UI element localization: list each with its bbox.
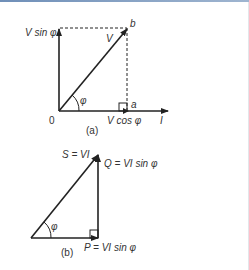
angle-phi-label: φ xyxy=(80,95,87,106)
v-label: V xyxy=(106,33,114,44)
origin-label: 0 xyxy=(49,115,55,126)
v-cos-phi-label: V cos φ xyxy=(107,115,142,126)
s-arrow xyxy=(31,155,98,238)
p-label: P = VI sin φ xyxy=(84,242,136,253)
right-angle-marker-b xyxy=(90,230,98,238)
angle-arc-b xyxy=(44,222,51,238)
diagram-a: V sin φ V b φ a 0 V cos φ I (a) xyxy=(25,18,168,136)
v-sin-phi-label: V sin φ xyxy=(25,27,57,38)
q-label: Q = VI sin φ xyxy=(104,158,158,169)
v-phasor-arrow xyxy=(59,29,127,111)
diagram-b: S = VI Q = VI sin φ φ P = VI sin φ (b) xyxy=(31,149,158,258)
s-label: S = VI xyxy=(62,149,90,160)
angle-arc xyxy=(72,95,79,111)
point-b-label: b xyxy=(130,18,136,29)
phasor-diagrams: V sin φ V b φ a 0 V cos φ I (a) S = VI Q… xyxy=(0,0,249,270)
angle-phi-label-b: φ xyxy=(51,221,58,232)
point-a-label: a xyxy=(131,99,137,110)
current-label: I xyxy=(160,115,163,126)
caption-b: (b) xyxy=(61,247,73,258)
caption-a: (a) xyxy=(86,125,98,136)
